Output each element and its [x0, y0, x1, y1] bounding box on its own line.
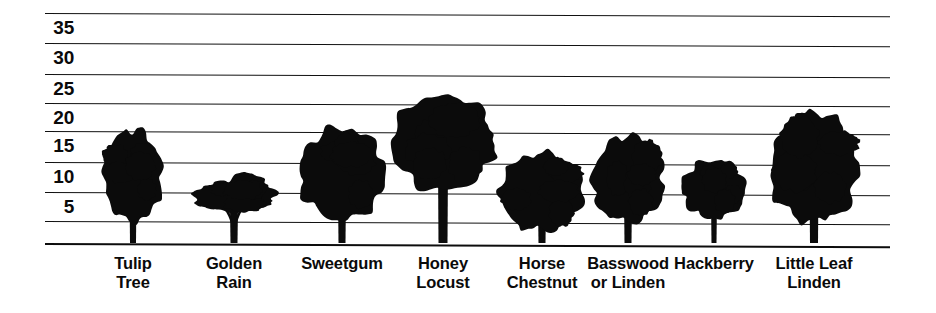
gridline	[45, 74, 890, 78]
tree-height-chart: 3530252015105 TulipTreeGoldenRainSweetgu…	[0, 0, 936, 313]
x-axis-label-line: Little Leaf	[744, 254, 884, 273]
x-axis-label-line: Rain	[164, 273, 304, 292]
tree-silhouette-sweetgum	[299, 127, 385, 243]
y-axis-tick-35: 35	[34, 18, 74, 37]
tree-silhouette-little-leaf-linden	[767, 111, 861, 243]
x-axis-category-labels: TulipTreeGoldenRainSweetgumHoneyLocustHo…	[0, 250, 936, 313]
y-axis-tick-10: 10	[34, 167, 74, 186]
gridline	[45, 243, 890, 248]
y-axis-tick-30: 30	[34, 48, 74, 67]
y-axis-tick-25: 25	[34, 79, 74, 98]
x-axis-label-line: or Linden	[558, 273, 698, 292]
tree-silhouette-hackberry	[682, 159, 746, 243]
tree-silhouette-horse-chestnut	[499, 153, 585, 243]
x-axis-label-little-leaf-linden: Little LeafLinden	[744, 254, 884, 293]
tree-silhouette-tulip-tree	[100, 129, 166, 243]
x-axis-label-line: Linden	[744, 273, 884, 292]
tree-silhouette-golden-rain	[193, 172, 275, 243]
tree-silhouette-honey-locust	[392, 94, 494, 243]
y-axis-tick-15: 15	[34, 136, 74, 155]
plot-area: 3530252015105	[0, 0, 936, 250]
tree-silhouette-basswood-or-linden	[589, 135, 667, 243]
gridline	[45, 13, 890, 17]
y-axis-tick-20: 20	[34, 108, 74, 127]
gridline	[45, 43, 890, 47]
y-axis-tick-5: 5	[34, 197, 74, 216]
